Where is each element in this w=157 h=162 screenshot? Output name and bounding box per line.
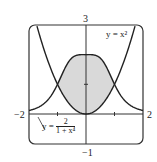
y-min-label: −1	[82, 148, 93, 158]
curve2-label: y = 2 1 + x⁴	[42, 118, 75, 135]
curve2-lhs: y =	[42, 121, 54, 131]
curve1-label: y = x²	[106, 30, 127, 39]
x-max-label: 2	[147, 110, 152, 120]
fraction-denominator: 1 + x⁴	[56, 127, 75, 135]
graph-canvas	[0, 0, 157, 162]
x-min-label: −2	[14, 110, 25, 120]
y-max-label: 3	[83, 14, 88, 24]
fraction: 2 1 + x⁴	[56, 118, 75, 135]
